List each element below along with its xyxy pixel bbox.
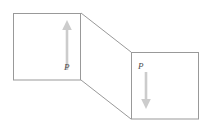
figure-canvas: P P xyxy=(0,0,207,127)
connector-lines xyxy=(81,13,131,119)
connector-bottom-edge xyxy=(81,80,131,119)
shear-block-figure: P P xyxy=(0,0,207,127)
left-force-label: P xyxy=(63,62,70,72)
left-square-face xyxy=(14,14,81,81)
right-force-label: P xyxy=(137,61,144,71)
left-arrow-head xyxy=(62,20,72,30)
right-force-arrow-down-icon xyxy=(141,72,151,109)
right-arrow-head xyxy=(141,99,151,109)
connector-top-edge xyxy=(81,13,131,52)
